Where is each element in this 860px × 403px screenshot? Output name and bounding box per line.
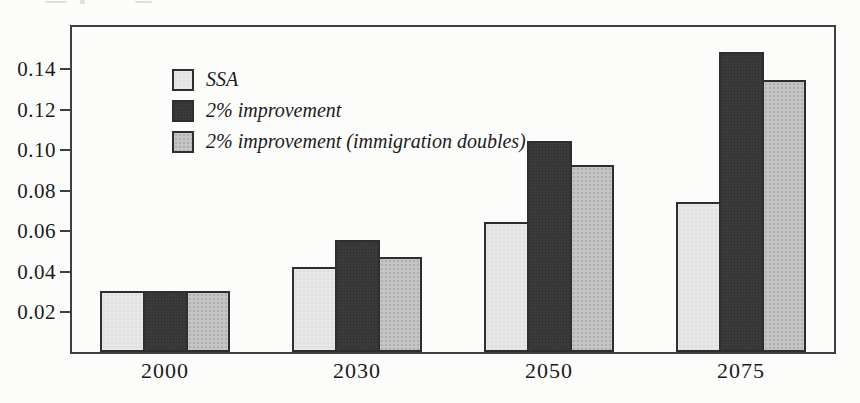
bar-2000-series-1 <box>143 291 188 352</box>
y-tick-label: 0.02 <box>0 300 56 324</box>
bar-2000-series-2 <box>186 291 230 352</box>
bar-chart-figure: SSA2% improvement2% improvement (immigra… <box>0 0 860 403</box>
y-tick-label: 0.08 <box>0 179 56 203</box>
y-tick-mark <box>60 230 71 232</box>
bar-2050-series-0 <box>484 222 529 352</box>
bar-2030-series-0 <box>292 267 337 352</box>
bar-group-2075 <box>676 27 806 352</box>
bar-group-2030 <box>292 27 422 352</box>
bar-2030-series-1 <box>335 240 380 352</box>
bar-2050-series-2 <box>570 165 614 352</box>
plot-area: SSA2% improvement2% improvement (immigra… <box>70 25 836 354</box>
y-tick-label: 0.10 <box>0 138 56 162</box>
y-tick-label: 0.12 <box>0 98 56 122</box>
y-tick-mark <box>60 68 71 70</box>
y-tick-label: 0.04 <box>0 260 56 284</box>
y-tick-mark <box>60 109 71 111</box>
y-tick-mark <box>60 190 71 192</box>
bar-2000-series-0 <box>100 291 145 352</box>
y-tick-mark <box>60 149 71 151</box>
bar-2030-series-2 <box>378 257 422 352</box>
bar-group-2000 <box>100 27 230 352</box>
y-tick-label: 0.14 <box>0 57 56 81</box>
bar-2075-series-2 <box>762 80 806 352</box>
x-tick-label: 2000 <box>120 358 210 384</box>
x-tick-label: 2075 <box>696 358 786 384</box>
bar-2075-series-0 <box>676 202 721 352</box>
bar-2050-series-1 <box>527 141 572 352</box>
y-tick-mark <box>60 311 71 313</box>
bar-group-2050 <box>484 27 614 352</box>
x-tick-label: 2050 <box>504 358 594 384</box>
y-tick-label: 0.06 <box>0 219 56 243</box>
x-tick-label: 2030 <box>312 358 402 384</box>
bar-2075-series-1 <box>719 52 764 352</box>
y-tick-mark <box>60 271 71 273</box>
